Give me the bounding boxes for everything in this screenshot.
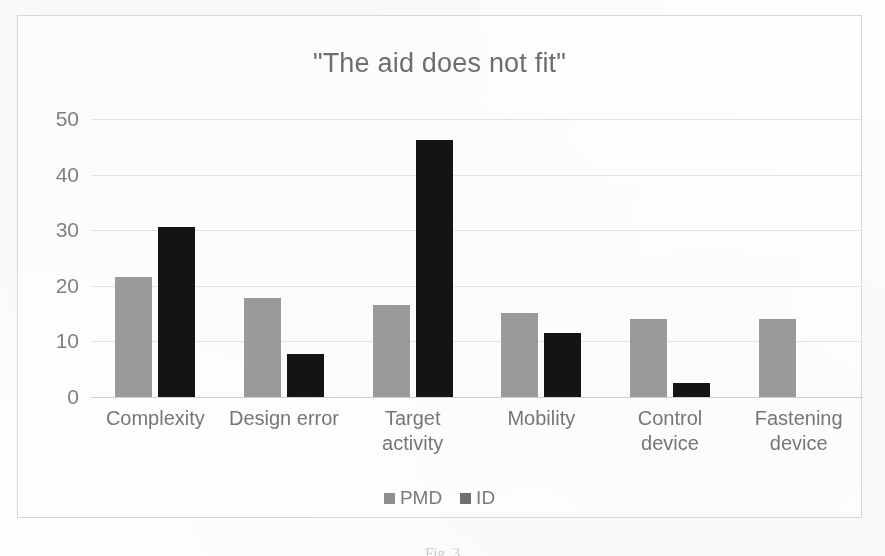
category-label: Design error bbox=[220, 406, 349, 456]
bar-pmd[interactable] bbox=[244, 298, 281, 397]
category-label-line: Complexity bbox=[91, 406, 220, 431]
bar-id[interactable] bbox=[673, 383, 710, 397]
legend-item-id[interactable]: ID bbox=[460, 487, 495, 509]
category-label: Targetactivity bbox=[348, 406, 477, 456]
category-label-line: Design error bbox=[220, 406, 349, 431]
category-label-line: Control bbox=[606, 406, 735, 431]
y-axis-tick-label: 10 bbox=[56, 329, 79, 353]
y-axis-tick-label: 30 bbox=[56, 218, 79, 242]
bar-pmd[interactable] bbox=[373, 305, 410, 397]
bar-id[interactable] bbox=[416, 140, 453, 397]
category-label: Controldevice bbox=[606, 406, 735, 456]
bar-group bbox=[477, 119, 606, 397]
category-label-line: device bbox=[734, 431, 863, 456]
y-axis-tick-label: 40 bbox=[56, 163, 79, 187]
bar-pmd[interactable] bbox=[630, 319, 667, 397]
legend-swatch-icon bbox=[460, 493, 471, 504]
category-label: Mobility bbox=[477, 406, 606, 456]
category-label-line: Mobility bbox=[477, 406, 606, 431]
bar-pmd[interactable] bbox=[759, 319, 796, 397]
bar-groups bbox=[91, 119, 863, 397]
bar-id[interactable] bbox=[287, 354, 324, 397]
category-label-line: Target bbox=[348, 406, 477, 431]
legend-swatch-icon bbox=[384, 493, 395, 504]
chart-legend: PMDID bbox=[18, 487, 861, 509]
legend-item-pmd[interactable]: PMD bbox=[384, 487, 442, 509]
bar-group bbox=[734, 119, 863, 397]
bar-pmd[interactable] bbox=[501, 313, 538, 398]
category-label-line: Fastening bbox=[734, 406, 863, 431]
category-axis-labels: ComplexityDesign errorTargetactivityMobi… bbox=[91, 406, 863, 456]
y-axis-tick-label: 20 bbox=[56, 274, 79, 298]
bar-id[interactable] bbox=[158, 227, 195, 397]
figure-caption: Fig. 3 bbox=[0, 545, 885, 556]
y-axis-tick-label: 0 bbox=[67, 385, 79, 409]
category-label-line: activity bbox=[348, 431, 477, 456]
bar-id[interactable] bbox=[544, 333, 581, 397]
bar-group bbox=[220, 119, 349, 397]
chart-title: "The aid does not fit" bbox=[18, 48, 861, 79]
bar-group bbox=[606, 119, 735, 397]
category-label-line: device bbox=[606, 431, 735, 456]
legend-label: ID bbox=[476, 487, 495, 509]
bar-group bbox=[91, 119, 220, 397]
y-axis-tick-label: 50 bbox=[56, 107, 79, 131]
plot-area: 50403020100 bbox=[91, 119, 863, 397]
chart-frame: "The aid does not fit" 50403020100 Compl… bbox=[17, 15, 862, 518]
bar-group bbox=[348, 119, 477, 397]
bar-pmd[interactable] bbox=[115, 277, 152, 397]
category-label: Complexity bbox=[91, 406, 220, 456]
category-label: Fasteningdevice bbox=[734, 406, 863, 456]
gridline-0: 0 bbox=[91, 397, 863, 398]
legend-label: PMD bbox=[400, 487, 442, 509]
